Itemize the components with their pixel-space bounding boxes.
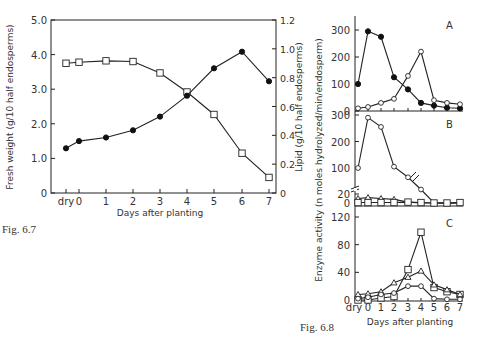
panel-a-open-circle-point: [445, 101, 450, 106]
panel-b-open-square-point: [444, 200, 450, 206]
lipid-point: [184, 93, 189, 98]
figure-canvas: 01.02.03.04.05.0 00.20.40.60.81.01.2 dry…: [0, 0, 481, 343]
panel-b-open-circle-point: [419, 187, 424, 192]
panel-a-filled-circle-line: [358, 31, 460, 108]
panel-a-open-circle-point: [356, 106, 361, 111]
panel-a-filled-circle-point: [365, 29, 370, 34]
panel-a-open-circle-series: [356, 49, 463, 111]
panel-b-open-square-point: [365, 199, 371, 205]
fig-6-8-y-axis-label: Enzyme activity (n moles hydrolyzed/min/…: [314, 38, 324, 281]
fresh-weight-point: [76, 59, 82, 65]
lipid-point: [266, 79, 271, 84]
panel-c-open-circle-point: [419, 284, 424, 289]
panel-a-filled-circle-point: [444, 105, 449, 110]
panel-a-open-circle-point: [406, 74, 411, 79]
panel-a-filled-circle-point: [431, 103, 436, 108]
y-tick-label: 40: [337, 267, 350, 278]
panel-a-open-circle-point: [379, 101, 384, 106]
panel-b-line-break-icon: [410, 172, 419, 181]
x-tick-label: 1: [378, 302, 384, 313]
fresh-weight-point: [266, 174, 272, 180]
fresh-weight-series: [63, 58, 272, 181]
panel-b-open-circle-point: [379, 125, 384, 130]
x-tick-label: 0: [365, 302, 371, 313]
panel-b-open-square-point: [457, 199, 463, 205]
panel-b-open-square-point: [418, 199, 424, 205]
x-tick-label: 2: [130, 196, 136, 207]
panel-a-filled-circle-point: [378, 34, 383, 39]
fig-6-8-x-axis-label: Days after planting: [367, 317, 453, 327]
lipid-line: [66, 52, 269, 149]
panel-b-open-square-point: [378, 199, 384, 205]
x-tick-label: 3: [157, 196, 163, 207]
y-tick-label: 200: [331, 137, 350, 148]
fresh-weight-point: [103, 58, 109, 64]
panel-b-open-circle-point: [392, 164, 397, 169]
fresh-weight-point: [157, 70, 163, 76]
panel-c-label: C: [446, 218, 453, 229]
fig-6-7-series: [63, 49, 272, 181]
y-tick-label: 300: [331, 25, 350, 36]
fig-6-7-caption: Fig. 6.7: [2, 223, 36, 235]
y-tick-label: 5.0: [31, 15, 47, 26]
x-tick-label: dry: [58, 196, 74, 207]
right-y-tick-label: 1.2: [280, 15, 295, 26]
x-tick-label: dry: [346, 302, 362, 313]
x-tick-label: 5: [211, 196, 217, 207]
fig-6-7-plot-frame: [51, 20, 276, 193]
y-tick-label: 100: [331, 79, 350, 90]
panel-c-open-circle-point: [379, 292, 384, 297]
panel-c-open-square-point: [405, 266, 411, 272]
x-tick-label: 7: [457, 302, 463, 313]
panel-b-open-circle-point: [406, 175, 411, 180]
panel-a-label: A: [446, 20, 453, 31]
panel-c-open-circle-point: [458, 297, 463, 302]
lipid-point: [211, 66, 216, 71]
y-tick-label: 2.0: [31, 119, 47, 130]
fig-6-8-chart: 010020030002010020030004080120dry0123456…: [300, 16, 463, 333]
x-tick-label: 4: [418, 302, 424, 313]
x-tick-label: 1: [103, 196, 109, 207]
y-tick-label: 1.0: [31, 153, 47, 164]
panel-c-open-circle-point: [445, 297, 450, 302]
lipid-point: [103, 135, 108, 140]
panel-b-open-square-point: [405, 199, 411, 205]
panel-a-filled-circle-point: [418, 100, 423, 105]
lipid-point: [130, 128, 135, 133]
panel-b-open-circle-point: [366, 115, 371, 120]
fig-6-7-left-y-axis-label: Fresh weight (g/10 half endosperms): [5, 24, 15, 189]
panel-c-open-circle-point: [356, 296, 361, 301]
panel-b-label: B: [446, 119, 453, 130]
panel-c-open-circle-point: [392, 291, 397, 296]
x-tick-label: 5: [431, 302, 437, 313]
fig-6-8-caption: Fig. 6.8: [300, 321, 334, 333]
right-y-tick-label: 0.2: [280, 159, 295, 170]
panel-a-open-circle-point: [432, 98, 437, 103]
panel-b-open-square-point: [391, 199, 397, 205]
x-tick-label: 7: [266, 196, 272, 207]
x-tick-label: 0: [76, 196, 82, 207]
right-y-tick-label: 0.8: [280, 73, 295, 84]
fig-6-7-chart: 01.02.03.04.05.0 00.20.40.60.81.01.2 dry…: [2, 15, 304, 235]
y-tick-label: 4.0: [31, 50, 47, 61]
panel-b-open-square-series: [355, 199, 463, 206]
fig-6-8-series: [355, 29, 463, 303]
x-tick-label: 4: [184, 196, 190, 207]
y-tick-label: 100: [331, 163, 350, 174]
right-y-tick-label: 1.0: [280, 44, 295, 55]
fig-6-7-x-axis-label: Days after planting: [117, 208, 203, 218]
panel-c-open-circle-point: [432, 296, 437, 301]
panel-a-open-circle-point: [419, 49, 424, 54]
x-tick-label: 6: [239, 196, 245, 207]
y-tick-label: 120: [331, 212, 350, 223]
panel-a-open-circle-line: [358, 52, 460, 109]
x-tick-label: 3: [405, 302, 411, 313]
lipid-point: [157, 114, 162, 119]
x-tick-label: 2: [391, 302, 397, 313]
panel-a-filled-circle-point: [355, 81, 360, 86]
panel-a-filled-circle-point: [405, 87, 410, 92]
right-y-tick-label: 0.6: [280, 102, 295, 113]
panel-a-open-circle-point: [392, 96, 397, 101]
panel-b-open-circle-line: [358, 118, 460, 203]
panel-a-filled-circle-point: [391, 75, 396, 80]
